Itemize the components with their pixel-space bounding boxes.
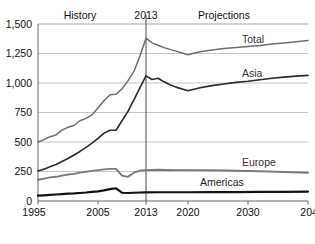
series-line-americas (38, 188, 308, 195)
x-axis-tick-label: 2020 (176, 206, 200, 218)
line-chart-svg: 02505007501,0001,2501,500199520052013202… (0, 0, 315, 244)
x-axis-tick-label: 2005 (86, 206, 110, 218)
annotation-history: History (64, 9, 97, 21)
series-label-total: Total (242, 33, 264, 45)
y-axis-tick-label: 500 (14, 136, 32, 148)
series-line-europe (38, 169, 308, 180)
x-axis-tick-label: 2040 (300, 206, 315, 218)
x-axis-tick-label: 1995 (22, 206, 46, 218)
x-axis-tick-label: 2013 (134, 206, 158, 218)
y-axis-tick-label: 250 (14, 165, 32, 177)
annotation-2013: 2013 (134, 9, 158, 21)
annotation-projections: Projections (198, 9, 250, 21)
series-label-americas: Americas (200, 176, 244, 188)
y-axis-tick-label: 1,250 (6, 47, 32, 59)
series-label-europe: Europe (242, 156, 276, 168)
y-axis-tick-label: 0 (26, 195, 32, 207)
y-axis-tick-label: 1,500 (6, 18, 32, 30)
chart-canvas: 02505007501,0001,2501,500199520052013202… (0, 0, 315, 244)
chart-container: 02505007501,0001,2501,500199520052013202… (0, 0, 315, 244)
y-axis-tick-label: 750 (14, 106, 32, 118)
series-label-asia: Asia (242, 67, 263, 79)
x-axis-tick-label: 2030 (236, 206, 260, 218)
y-axis-tick-label: 1,000 (6, 77, 32, 89)
